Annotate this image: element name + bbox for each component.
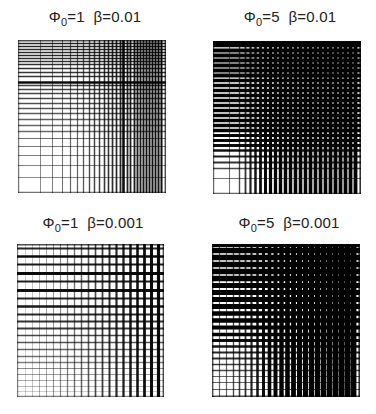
phi-value: =5 bbox=[257, 214, 275, 231]
grid-plot bbox=[213, 41, 361, 194]
phi-symbol: Φ bbox=[238, 214, 250, 231]
phi-symbol: Φ bbox=[49, 8, 61, 25]
panel-title: Φ0=1 β=0.01 bbox=[0, 8, 190, 28]
phi-symbol: Φ bbox=[42, 214, 54, 231]
phi-value: =5 bbox=[262, 8, 280, 25]
beta-value: β=0.01 bbox=[93, 8, 141, 25]
grid-plot bbox=[212, 244, 360, 397]
beta-value: β=0.001 bbox=[87, 214, 143, 231]
grid-plot bbox=[18, 40, 166, 193]
phi-value: =1 bbox=[61, 214, 79, 231]
beta-value: β=0.01 bbox=[288, 8, 336, 25]
beta-value: β=0.001 bbox=[283, 214, 339, 231]
grid-plot bbox=[17, 244, 164, 397]
panel-title: Φ0=5 β=0.01 bbox=[195, 8, 376, 28]
phi-value: =1 bbox=[67, 8, 85, 25]
panel-title: Φ0=1 β=0.001 bbox=[0, 214, 188, 234]
panel-title: Φ0=5 β=0.001 bbox=[194, 214, 376, 234]
phi-symbol: Φ bbox=[244, 8, 256, 25]
